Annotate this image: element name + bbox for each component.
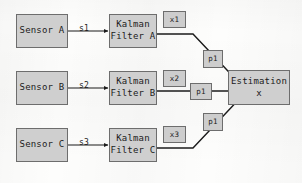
kalman-filter-b-line2: Filter B	[111, 88, 156, 100]
kalman-filter-b-line1: Kalman	[116, 76, 150, 88]
kalman-filter-c-line2: Filter C	[111, 145, 156, 157]
sensor-b-block[interactable]: Sensor B	[16, 71, 68, 105]
estimation-line1: Estimation	[231, 76, 287, 88]
kalman-filter-a-block[interactable]: Kalman Filter A	[109, 14, 157, 48]
signal-s1-label: s1	[79, 24, 89, 33]
kalman-filter-c-line1: Kalman	[116, 133, 150, 145]
kalman-filter-c-block[interactable]: Kalman Filter C	[109, 128, 157, 162]
covariance-p1-middle-tag: p1	[190, 83, 212, 100]
sensor-a-block[interactable]: Sensor A	[16, 14, 68, 48]
covariance-p1-bottom-label: p1	[208, 117, 217, 127]
covariance-p1-top-tag: p1	[203, 50, 223, 68]
state-x3-label: x3	[170, 130, 179, 140]
state-x1-tag: x1	[163, 11, 186, 28]
kalman-filter-a-line1: Kalman	[116, 19, 150, 31]
signal-s2-label: s2	[79, 81, 89, 90]
sensor-c-block[interactable]: Sensor C	[16, 128, 68, 162]
sensor-a-label: Sensor A	[20, 25, 65, 37]
kalman-filter-b-block[interactable]: Kalman Filter B	[109, 71, 157, 105]
diagram-canvas: Sensor A s1 Kalman Filter A x1 p1 Sensor…	[0, 0, 302, 183]
state-x2-tag: x2	[163, 70, 186, 87]
signal-s3-label: s3	[79, 138, 89, 147]
sensor-b-label: Sensor B	[20, 82, 65, 94]
covariance-p1-top-label: p1	[208, 54, 217, 64]
estimation-block[interactable]: Estimation x	[228, 70, 290, 105]
state-x3-tag: x3	[163, 126, 186, 143]
sensor-c-label: Sensor C	[20, 139, 65, 151]
covariance-p1-middle-label: p1	[196, 87, 205, 97]
kalman-filter-a-line2: Filter A	[111, 31, 156, 43]
covariance-p1-bottom-tag: p1	[203, 113, 223, 131]
estimation-line2: x	[256, 88, 262, 100]
state-x2-label: x2	[170, 74, 179, 84]
state-x1-label: x1	[170, 15, 179, 25]
